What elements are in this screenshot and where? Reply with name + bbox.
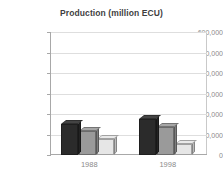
bar — [79, 131, 96, 155]
gridline — [50, 94, 207, 95]
y-axis-line — [50, 32, 51, 155]
bar — [61, 124, 78, 155]
gridline — [50, 32, 207, 33]
chart-title: Production (million ECU) — [0, 8, 223, 18]
chart-container: Production (million ECU) 0100,000200,000… — [0, 0, 223, 180]
bar-side-face — [156, 115, 159, 155]
bar-front-face — [139, 119, 156, 155]
plot-area — [50, 32, 207, 155]
gridline — [50, 73, 207, 74]
bar-side-face — [78, 120, 81, 155]
x-axis-tick-label: 1998 — [159, 160, 176, 169]
gridline — [50, 114, 207, 115]
bar — [97, 139, 114, 155]
bar-front-face — [97, 139, 114, 155]
bar-side-face — [96, 128, 99, 155]
bar-front-face — [157, 127, 174, 155]
bar-front-face — [79, 131, 96, 155]
bar-front-face — [61, 124, 78, 155]
bar — [175, 144, 192, 155]
x-axis-tick-label: 1988 — [81, 160, 98, 169]
bar-front-face — [175, 144, 192, 155]
bar — [157, 127, 174, 155]
y-axis-tick — [47, 155, 51, 156]
bar — [139, 119, 156, 155]
gridline — [50, 53, 207, 54]
bar-side-face — [174, 123, 177, 155]
